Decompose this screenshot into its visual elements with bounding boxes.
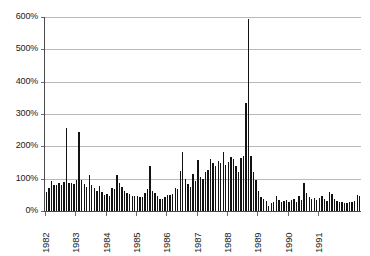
x-axis-tickmark [136, 212, 137, 216]
bar [109, 196, 110, 211]
bar [154, 193, 155, 211]
bar [296, 202, 297, 211]
bar [126, 193, 127, 211]
bar [276, 196, 277, 211]
bar [341, 202, 342, 211]
bar [48, 188, 49, 211]
bar [233, 159, 234, 211]
bar [314, 198, 315, 211]
x-axis-tick-label: 1989 [253, 233, 263, 253]
bar [319, 198, 320, 211]
bar [129, 194, 130, 211]
bar [111, 188, 112, 211]
bar [139, 197, 140, 211]
bar [357, 195, 358, 211]
bar [71, 183, 72, 211]
x-axis-tick-label: 1984 [102, 233, 112, 253]
bar [152, 191, 153, 211]
bar [212, 163, 213, 211]
bar [263, 199, 264, 211]
bar [268, 206, 269, 211]
bar [164, 197, 165, 211]
bar [306, 193, 307, 211]
bar [291, 200, 292, 211]
bar [344, 203, 345, 211]
bar [132, 196, 133, 211]
bar [223, 152, 224, 211]
bar [218, 161, 219, 211]
bar [321, 196, 322, 211]
bar [96, 191, 97, 211]
bar [124, 191, 125, 211]
bar [195, 181, 196, 211]
bar [175, 188, 176, 211]
bar [303, 183, 304, 211]
y-axis-tick-label: 100% [0, 174, 38, 183]
bar [205, 172, 206, 211]
bar [253, 172, 254, 211]
bar [51, 181, 52, 211]
bar [182, 152, 183, 211]
bar [331, 194, 332, 211]
bar [81, 180, 82, 211]
x-axis-tick-label: 1988 [223, 233, 233, 253]
x-axis-tickmark [45, 212, 46, 216]
bar [197, 160, 198, 211]
bar [190, 187, 191, 211]
x-axis-tick-label: 1990 [284, 233, 294, 253]
bar [258, 191, 259, 211]
bar [56, 185, 57, 211]
bar [359, 196, 360, 211]
bar [200, 177, 201, 211]
bar [235, 166, 236, 211]
bar [159, 199, 160, 211]
bar [157, 196, 158, 211]
bar [137, 196, 138, 211]
bar [273, 202, 274, 211]
bar [89, 175, 90, 211]
bar [283, 201, 284, 211]
bar [339, 202, 340, 211]
y-axis-tick-label: 300% [0, 109, 38, 118]
bar [104, 195, 105, 211]
bar [228, 162, 229, 211]
bar [326, 201, 327, 211]
y-axis-tick-label: 0% [0, 206, 38, 215]
x-axis-tickmark [197, 212, 198, 216]
bar [73, 184, 74, 211]
bar [86, 187, 87, 211]
y-axis-tick-label: 200% [0, 141, 38, 150]
bar [114, 189, 115, 211]
bar [121, 187, 122, 211]
x-axis-tickmark [166, 212, 167, 216]
x-axis-tickmark [75, 212, 76, 216]
bar [220, 163, 221, 212]
chart-container: 0%100%200%300%400%500%600% 1982198319841… [0, 0, 370, 256]
bar [248, 19, 249, 211]
bar [185, 179, 186, 211]
bar [271, 203, 272, 211]
bar [106, 194, 107, 211]
bar [245, 103, 246, 211]
x-axis-tickmark [106, 212, 107, 216]
bar [278, 200, 279, 211]
x-axis-tick-label: 1991 [314, 233, 324, 253]
bar [210, 159, 211, 211]
bar [149, 166, 150, 211]
y-axis-tick-label: 600% [0, 12, 38, 21]
bar [286, 200, 287, 211]
bar [309, 197, 310, 211]
bar [354, 201, 355, 211]
bar [119, 183, 120, 211]
bar [167, 195, 168, 211]
x-axis-tick-label: 1986 [162, 233, 172, 253]
x-axis-tick-label: 1985 [132, 233, 142, 253]
bar [225, 165, 226, 211]
x-axis-line [44, 211, 361, 212]
bar [240, 158, 241, 211]
x-axis-tick-label: 1983 [71, 233, 81, 253]
bar [260, 197, 261, 211]
x-axis-tick-label: 1987 [193, 233, 203, 253]
bar [134, 196, 135, 211]
bar [311, 199, 312, 211]
